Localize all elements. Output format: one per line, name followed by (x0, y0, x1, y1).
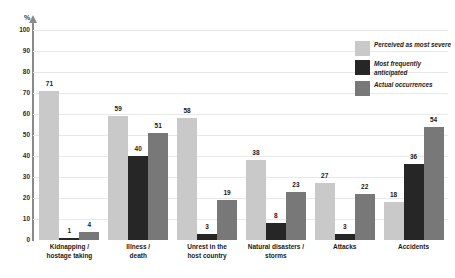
x-axis-label-line: Unrest in the (174, 243, 241, 252)
bar-value-label: 3 (205, 224, 209, 231)
bar-slot: 8 (266, 30, 286, 240)
bar-slot: 3 (335, 30, 355, 240)
bar-slot: 51 (148, 30, 168, 240)
x-axis-label-line: hostage taking (36, 252, 103, 261)
x-axis-label-line: Natural disasters / (242, 243, 309, 252)
bar-value-label: 8 (274, 213, 278, 220)
bar-group: 594051 (104, 30, 173, 240)
bar: 23 (286, 192, 306, 240)
bar-value-label: 1 (68, 228, 72, 235)
legend-swatch (355, 41, 370, 56)
bar-value-label: 3 (343, 224, 347, 231)
bar-value-label: 19 (223, 190, 230, 197)
bar: 51 (148, 133, 168, 240)
bar-value-label: 54 (430, 117, 437, 124)
bar: 19 (217, 200, 237, 240)
x-axis-label: Attacks (310, 243, 379, 277)
bar-slot: 71 (39, 30, 59, 240)
legend-label: Perceived as most severe (374, 41, 451, 50)
x-axis-label: Accidents (379, 243, 448, 277)
x-axis-label-line: Kidnapping / (36, 243, 103, 252)
bar: 59 (108, 116, 128, 240)
x-axis-label: Kidnapping /hostage taking (35, 243, 104, 277)
bar-value-label: 71 (46, 81, 53, 88)
x-axis-label-line: Attacks (311, 243, 378, 252)
bar-slot: 40 (128, 30, 148, 240)
bar: 3 (335, 234, 355, 240)
legend-item: Perceived as most severe (355, 41, 455, 56)
bar-value-label: 58 (183, 108, 190, 115)
legend-swatch (355, 81, 370, 96)
legend-label: Most frequently anticipated (374, 60, 455, 77)
y-axis-ticks: 1009080706050403020100 (0, 30, 30, 240)
bar-group: 7114 (35, 30, 104, 240)
y-axis-tick-label: 50 (4, 132, 30, 139)
bar: 18 (384, 202, 404, 240)
bar-slot: 23 (286, 30, 306, 240)
y-axis-tick-label: 10 (4, 216, 30, 223)
x-axis-label-line: death (105, 252, 172, 261)
bar-value-label: 18 (390, 192, 397, 199)
bar-value-label: 36 (410, 154, 417, 161)
bar: 54 (424, 127, 444, 240)
bar: 40 (128, 156, 148, 240)
bar-slot: 1 (59, 30, 79, 240)
bar-slot: 27 (315, 30, 335, 240)
y-axis-tick-label: 100 (4, 27, 30, 34)
bar: 1 (59, 238, 79, 240)
legend-item: Actual occurrences (355, 81, 455, 96)
bar-group: 58319 (173, 30, 242, 240)
x-axis-label: Natural disasters /storms (241, 243, 310, 277)
bar: 38 (246, 160, 266, 240)
x-axis-labels: Kidnapping /hostage takingIllness /death… (35, 243, 448, 277)
legend-swatch (355, 60, 370, 75)
bar-value-label: 40 (135, 146, 142, 153)
y-axis-tick-label: 60 (4, 111, 30, 118)
bar: 3 (197, 234, 217, 240)
bar: 27 (315, 183, 335, 240)
y-axis-tick-label: 40 (4, 153, 30, 160)
x-axis-label-line: host country (174, 252, 241, 261)
bar-group: 38823 (241, 30, 310, 240)
bar-chart: % 1009080706050403020100 711459405158319… (0, 0, 455, 278)
bar: 8 (266, 223, 286, 240)
legend-label: Actual occurrences (374, 81, 432, 90)
x-axis-label-line: Accidents (380, 243, 447, 252)
bar-value-label: 27 (321, 173, 328, 180)
x-axis-label: Illness /death (104, 243, 173, 277)
bar: 4 (79, 232, 99, 240)
x-axis-label-line: storms (242, 252, 309, 261)
y-axis-arrow-icon (29, 15, 37, 23)
bar-slot: 38 (246, 30, 266, 240)
legend-item: Most frequently anticipated (355, 60, 455, 77)
x-axis-label: Unrest in thehost country (173, 243, 242, 277)
x-axis-label-line: Illness / (105, 243, 172, 252)
y-axis-tick-label: 0 (4, 237, 30, 244)
y-axis-tick-label: 30 (4, 174, 30, 181)
y-axis-tick-label: 90 (4, 48, 30, 55)
chart-legend: Perceived as most severeMost frequently … (355, 41, 455, 100)
bar-value-label: 51 (155, 123, 162, 130)
y-axis-tick-label: 20 (4, 195, 30, 202)
y-axis-tick-label: 80 (4, 69, 30, 76)
bar-value-label: 4 (88, 222, 92, 229)
bar: 58 (177, 118, 197, 240)
y-axis-tick-label: 70 (4, 90, 30, 97)
bar-slot: 19 (217, 30, 237, 240)
bar-value-label: 22 (361, 184, 368, 191)
bar-slot: 3 (197, 30, 217, 240)
bar: 71 (39, 91, 59, 240)
bar-value-label: 38 (252, 150, 259, 157)
bar-value-label: 59 (115, 106, 122, 113)
bar-value-label: 23 (292, 182, 299, 189)
bar: 22 (355, 194, 375, 240)
bar: 36 (404, 164, 424, 240)
bar-slot: 58 (177, 30, 197, 240)
bar-slot: 59 (108, 30, 128, 240)
bar-slot: 4 (79, 30, 99, 240)
